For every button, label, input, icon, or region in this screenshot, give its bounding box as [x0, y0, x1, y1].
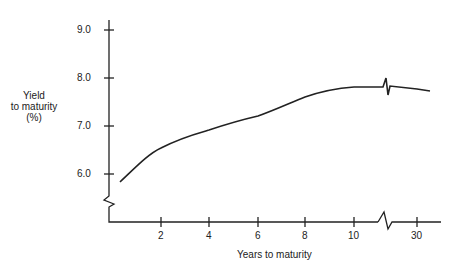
y-tick-label: 6.0: [77, 168, 91, 179]
x-tick-label: 10: [348, 230, 359, 241]
yield-curve-chart: 9.0 8.0 7.0 6.0 Yield to maturity (%) 2 …: [0, 0, 456, 276]
y-tick-label: 7.0: [77, 120, 91, 131]
x-tick-label: 30: [411, 230, 422, 241]
x-tick-label: 4: [206, 230, 212, 241]
y-tick-label: 8.0: [77, 72, 91, 83]
y-axis-label: Yield to maturity (%): [8, 90, 60, 123]
x-axis-label: Years to maturity: [237, 249, 312, 260]
x-tick-label: 6: [255, 230, 261, 241]
chart-plot: [0, 0, 456, 276]
x-tick-label: 2: [158, 230, 164, 241]
y-tick-label: 9.0: [77, 24, 91, 35]
x-tick-label: 8: [302, 230, 308, 241]
